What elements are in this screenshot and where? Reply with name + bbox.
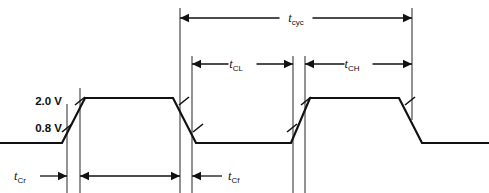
tick-fall2-vih	[405, 97, 415, 105]
dimension-tcyc: tcyc	[180, 11, 412, 27]
arrow-left-tcl	[192, 60, 201, 68]
dimension-label-sub-tcyc: cyc	[292, 18, 304, 27]
dimension-tch: tCH	[305, 57, 412, 73]
timing-diagram-canvas: 2.0 V0.8 VtcyctCLtCHtCrtCf	[0, 0, 489, 193]
dimension-label-sub-tch: CH	[348, 64, 360, 73]
dimension-label-tcf: tCf	[228, 169, 240, 185]
dimension-label-tch: tCH	[344, 57, 359, 73]
clock-waveform	[0, 98, 489, 143]
dimension-label-sub-tcr: Cr	[17, 176, 26, 185]
tick-fall1-vil	[193, 124, 203, 132]
dimension-pulse-width	[80, 172, 180, 180]
dimension-tcr: tCr	[14, 169, 67, 185]
dimension-label-tcl: tCL	[229, 57, 243, 73]
arrow-left-pulse-width	[80, 172, 89, 180]
voltage-label-vih: 2.0 V	[35, 95, 62, 107]
arrow-left-tcyc	[180, 14, 189, 22]
arrow-right-tcl	[284, 60, 293, 68]
arrow-left-tch	[305, 60, 314, 68]
dimension-label-sub-tcf: Cf	[231, 176, 240, 185]
dimension-tcf: tCf	[192, 169, 240, 185]
timing-diagram-figure: 2.0 V0.8 VtcyctCLtCHtCrtCf	[0, 0, 489, 193]
dimension-label-tcr: tCr	[14, 169, 26, 185]
voltage-label-vil: 0.8 V	[35, 122, 62, 134]
arrow-left-tcf	[192, 172, 201, 180]
dimension-label-tcyc: tcyc	[288, 11, 303, 27]
dimension-label-sub-tcl: CL	[233, 64, 244, 73]
arrow-right-tcr	[58, 172, 67, 180]
dimension-tcl: tCL	[192, 57, 293, 73]
arrow-right-tch	[403, 60, 412, 68]
arrow-right-tcyc	[403, 14, 412, 22]
arrow-right-pulse-width	[171, 172, 180, 180]
